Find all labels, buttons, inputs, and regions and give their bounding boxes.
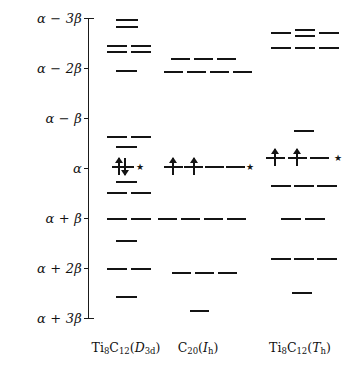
energy-level: [271, 47, 291, 49]
energy-level: [271, 32, 291, 34]
electron-arrow-up: [296, 149, 298, 166]
column-caption-col-ti8c12-d3d: Ti8C12(D3d): [92, 340, 161, 355]
energy-level: [294, 185, 314, 187]
energy-level: [319, 32, 339, 34]
electron-arrow-up: [274, 149, 276, 166]
homo-star-marker: ★: [334, 154, 342, 163]
energy-level: [281, 218, 301, 220]
column-caption-col-ti8c12-th: Ti8C12(Th): [269, 340, 331, 355]
energy-level: [319, 47, 339, 49]
energy-level: [295, 35, 315, 37]
energy-level: [294, 130, 314, 132]
column-caption-col-c20-ih: C20(Ih): [178, 340, 219, 355]
energy-level: [271, 185, 291, 187]
energy-level: [317, 258, 337, 260]
col-ti8c12-th: ★: [0, 0, 358, 375]
energy-level: [295, 47, 315, 49]
energy-level-diagram: α − 3βα − 2βα − βαα + βα + 2βα + 3β ★★★ …: [0, 0, 358, 375]
energy-level: [305, 218, 325, 220]
energy-level: [295, 29, 315, 31]
energy-level: [317, 185, 337, 187]
energy-level: [271, 258, 291, 260]
energy-level: [310, 157, 329, 159]
energy-level: [294, 258, 314, 260]
energy-level: [292, 292, 312, 294]
